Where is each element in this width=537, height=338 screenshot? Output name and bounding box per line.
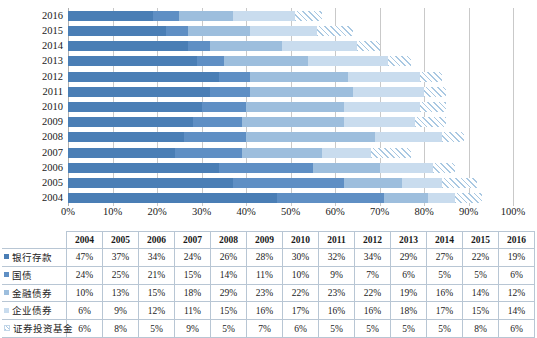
legend-item-0: 银行存款 [2,249,67,267]
x-axis-tick-labels: 0%10%20%30%40%50%60%70%80%90%100% [68,206,513,222]
bar-row: 2012 [68,72,513,82]
table-col-header: 2007 [175,232,211,249]
table-cell: 14% [499,302,535,320]
table-row: 银行存款47%37%34%24%26%28%30%32%34%29%27%22%… [2,249,535,267]
bar-segment [357,41,379,51]
table-cell: 17% [427,302,463,320]
table-cell: 19% [499,249,535,267]
bar-track [68,163,513,173]
bar-segment [68,87,210,97]
table-header-row: 2004200520062007200820092010201120122013… [2,232,535,249]
bar-segment [317,26,353,36]
bar-segment [344,117,415,127]
legend-item-label: 企业债券 [12,306,52,316]
bar-segment [68,117,193,127]
y-axis-label: 2008 [42,132,63,143]
bar-segment [188,41,210,51]
legend-square-icon [4,290,9,295]
y-axis-label: 2013 [42,56,63,67]
bar-segment [246,102,344,112]
table-row: 金融债券10%13%15%18%29%23%22%23%22%19%16%14%… [2,284,535,302]
bar-segment [68,193,277,203]
table-cell: 23% [247,284,283,302]
x-tick-label: 30% [192,206,211,217]
x-tick-label: 0% [61,206,75,217]
bar-row: 2013 [68,56,513,66]
bar-segment [68,148,175,158]
y-axis-label: 2014 [42,41,63,52]
table-col-header: 2016 [499,232,535,249]
table-cell: 17% [283,302,319,320]
x-tick-label: 80% [414,206,433,217]
legend-item-label: 金融债券 [12,288,52,298]
table-cell: 24% [67,266,103,284]
legend-item-1: 国债 [2,266,67,284]
bar-segment [295,11,322,21]
table-cell: 15% [211,302,247,320]
table-cell: 5% [319,320,355,338]
bar-row: 2014 [68,41,513,51]
bar-segment [68,163,219,173]
y-axis-label: 2015 [42,26,63,37]
table-row: 企业债券6%9%12%11%15%16%17%16%16%18%17%15%14… [2,302,535,320]
bar-segment [184,132,246,142]
bar-segment [219,163,312,173]
bar-track [68,102,513,112]
bar-track [68,117,513,127]
table-row: 证券投资基金6%8%5%9%5%7%6%5%5%5%5%8%6% [2,320,535,338]
table-cell: 15% [175,266,211,284]
bar-segment [197,56,224,66]
bar-track [68,41,513,51]
bar-segment [68,41,188,51]
table-cell: 47% [67,249,103,267]
bar-segment [277,193,384,203]
x-tick-label: 20% [147,206,166,217]
bar-segment [68,178,233,188]
table-cell: 19% [391,284,427,302]
bar-track [68,72,513,82]
table-cell: 6% [499,320,535,338]
table-cell: 8% [103,320,139,338]
bar-segment [68,72,219,82]
table-cell: 5% [355,320,391,338]
y-axis-label: 2010 [42,102,63,113]
y-axis-label: 2016 [42,10,63,21]
bar-segment [210,41,281,51]
bar-track [68,87,513,97]
table-cell: 5% [139,320,175,338]
y-axis-label: 2005 [42,178,63,189]
bar-segment [242,117,344,127]
table-cell: 12% [139,302,175,320]
y-axis-label: 2012 [42,71,63,82]
bar-segment [233,178,344,188]
table-cell: 26% [211,249,247,267]
x-tick-label: 100% [501,206,526,217]
legend-square-hatch-icon [4,325,10,331]
legend-square-icon [4,254,9,259]
bar-segment [420,102,447,112]
bar-segment [455,193,482,203]
bar-segment [415,117,446,127]
bar-segment [428,193,455,203]
y-axis-label: 2011 [42,87,63,98]
table-cell: 9% [319,266,355,284]
legend-item-3: 企业债券 [2,302,67,320]
table-cell: 14% [463,284,499,302]
chart-data-table: 2004200520062007200820092010201120122013… [0,231,537,338]
table-cell: 27% [427,249,463,267]
table-cell: 12% [499,284,535,302]
table-cell: 15% [139,284,175,302]
bar-segment [344,178,402,188]
table-cell: 10% [67,284,103,302]
table-body: 银行存款47%37%34%24%26%28%30%32%34%29%27%22%… [2,249,535,338]
bar-track [68,11,513,21]
bar-row: 2008 [68,132,513,142]
bar-segment [402,178,442,188]
bar-segment [388,56,410,66]
y-axis-label: 2009 [42,117,63,128]
x-tick-label: 70% [370,206,389,217]
table-cell: 18% [175,284,211,302]
table-cell: 16% [247,302,283,320]
table-cell: 29% [391,249,427,267]
table-col-header: 2014 [427,232,463,249]
